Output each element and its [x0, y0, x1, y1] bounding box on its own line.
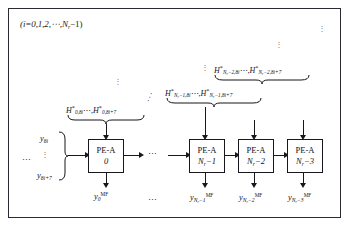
coefficient-feed-line-nr1 [205, 107, 206, 136]
pe-unit-0-index: 0 [104, 156, 108, 168]
output-label-nr1: yNr−1MF [190, 192, 213, 204]
vertical-ellipsis-mid-right: ... [278, 40, 280, 47]
output-nr3-sub-tail: −3 [297, 197, 304, 203]
output-nr1-sup: MF [206, 192, 214, 198]
output-label-nr2: yNr−2MF [239, 192, 262, 204]
coeff1-mid: ⋯ [83, 106, 91, 115]
coeff3-mid: ⋯ [240, 66, 248, 75]
figure-border [8, 8, 341, 218]
output-row-ellipsis: ⋯ [148, 195, 158, 205]
output-arrow-0 [103, 183, 109, 188]
input-bottom-sub: 8i+7 [41, 175, 52, 181]
output-nr2-sup: MF [255, 192, 263, 198]
coefficient-underbrace-nr2 [214, 75, 310, 84]
pe-unit-nr2[interactable]: PE-A Nr−2 [238, 139, 274, 173]
coefficient-feed-line-nr3 [303, 120, 304, 136]
output-arrow-nr1 [202, 183, 208, 188]
coeff2-mid: ⋯ [191, 89, 199, 98]
input-group-brace [58, 131, 69, 181]
input-vertical-ellipsis: ... [44, 150, 46, 157]
pe-unit-nr3[interactable]: PE-A Nr−3 [287, 139, 323, 173]
pe-unit-nr3-name: PE-A [296, 145, 315, 156]
chain-line-0 [124, 155, 140, 156]
pe-unit-nr1-index: Nr−1 [198, 156, 216, 168]
figure-canvas: (i=0,1,2,⋯,Nr−1) ... ... ... ... ⋰ H*Nr−… [0, 0, 351, 228]
output-arrow-nr2 [251, 183, 257, 188]
vertical-ellipsis-before-top-coefficient: ... [204, 63, 206, 70]
coefficient-feed-line-nr2 [254, 120, 255, 136]
chain-arrow-0 [139, 152, 144, 158]
pe-unit-nr3-index: Nr−3 [296, 156, 314, 168]
output-nr3-sup: MF [304, 192, 312, 198]
pe-unit-nr2-index: Nr−2 [247, 156, 265, 168]
input-label-bottom: y8i+7 [37, 170, 52, 181]
output-label-nr3: yNr−3MF [288, 192, 311, 204]
output-0-sup: MF [101, 191, 109, 197]
pe-unit-nr1-name: PE-A [198, 145, 217, 156]
vertical-ellipsis-over-first-coefficient: ... [117, 77, 119, 84]
output-arrow-nr3 [300, 183, 306, 188]
chain-line-into-nr1 [168, 155, 187, 156]
pe-unit-0-name: PE-A [97, 145, 116, 156]
output-nr2-sub-tail: −2 [248, 197, 255, 203]
pe-unit-nr2-name: PE-A [247, 145, 266, 156]
input-label-top: y8i [40, 133, 48, 144]
chain-ellipsis: ⋯ [148, 149, 158, 159]
output-label-0: y0MF [94, 191, 108, 202]
index-range-annotation: (i=0,1,2,⋯,Nr−1) [20, 19, 82, 30]
index-range-text: (i=0,1,2,⋯,N [20, 19, 68, 29]
pe-unit-0[interactable]: PE-A 0 [88, 139, 124, 173]
output-nr1-sub-tail: −1 [199, 197, 206, 203]
coefficient-underbrace-nr1 [166, 98, 262, 107]
vertical-ellipsis-top-right: ... [321, 24, 323, 31]
coefficient-underbrace-0 [67, 115, 145, 124]
index-range-tail: −1) [70, 19, 82, 29]
pe-unit-nr1[interactable]: PE-A Nr−1 [189, 139, 225, 173]
coefficient-label-0: H*0,8i⋯,H*0,8i+7 [66, 104, 116, 115]
input-top-sub: 8i [44, 138, 48, 144]
input-left-ellipsis: ⋯ [22, 155, 32, 165]
input-line-0 [68, 155, 86, 156]
